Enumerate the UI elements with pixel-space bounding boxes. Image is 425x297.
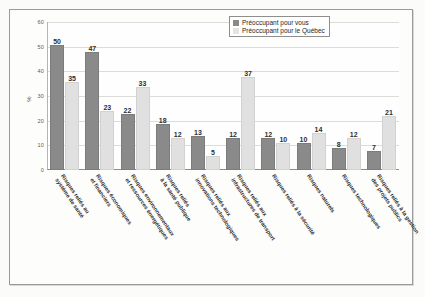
- bar-group: 1812: [153, 22, 188, 170]
- x-category: Risques reliés auxinnovations technologi…: [188, 171, 223, 283]
- bar-group: 2233: [117, 22, 152, 170]
- chart-figure: % 0102030405060 503547232233181213512371…: [0, 0, 425, 297]
- bar-group: 1014: [293, 22, 328, 170]
- bar: 12: [171, 138, 185, 170]
- bar-group: 721: [364, 22, 399, 170]
- bar-value-label: 7: [372, 144, 376, 151]
- legend-item[interactable]: Préoccupant pour vous: [233, 19, 325, 26]
- chart-legend: Préoccupant pour vousPréoccupant pour le…: [229, 16, 330, 37]
- bar: 13: [191, 136, 205, 170]
- bar: 7: [367, 151, 381, 170]
- bar-value-label: 22: [124, 107, 132, 114]
- bar: 23: [100, 111, 114, 170]
- legend-label: Préoccupant pour vous: [242, 19, 309, 26]
- legend-item[interactable]: Préoccupant pour le Québec: [233, 27, 325, 34]
- bar: 35: [65, 82, 79, 170]
- legend-swatch-icon: [233, 20, 239, 26]
- bar-value-label: 12: [350, 131, 358, 138]
- y-tick-label: 0: [41, 167, 44, 173]
- figure-frame: % 0102030405060 503547232233181213512371…: [9, 9, 413, 285]
- bar-value-label: 10: [300, 136, 308, 143]
- plot-wrapper: % 0102030405060 503547232233181213512371…: [10, 10, 414, 286]
- bar: 12: [226, 138, 240, 170]
- x-category: Risques reliésà la santé publique: [153, 171, 188, 283]
- bar-group: 135: [188, 22, 223, 170]
- x-category: Risques naturels: [293, 171, 328, 283]
- y-tick-label: 50: [37, 44, 44, 50]
- bar: 12: [261, 138, 275, 170]
- x-category: Risques reliés à la sécurité: [258, 171, 293, 283]
- bar-value-label: 33: [139, 80, 147, 87]
- bar: 47: [85, 52, 99, 170]
- x-category: Risques technologiques: [329, 171, 364, 283]
- bar-group: 5035: [47, 22, 82, 170]
- bar-groups: 5035472322331812135123712101014812721: [47, 22, 399, 170]
- x-category: Risques économiqueset financiers: [82, 171, 117, 283]
- bar: 22: [121, 114, 135, 170]
- y-tick-label: 30: [37, 93, 44, 99]
- bar-group: 1210: [258, 22, 293, 170]
- bar-value-label: 47: [88, 45, 96, 52]
- y-tick-label: 60: [37, 19, 44, 25]
- bar-group: 1237: [223, 22, 258, 170]
- bar-value-label: 14: [315, 126, 323, 133]
- y-tick-label: 40: [37, 68, 44, 74]
- x-category: Risques environnementauxet ressources én…: [117, 171, 152, 283]
- bar: 50: [50, 45, 64, 170]
- bar-value-label: 23: [103, 104, 111, 111]
- bar-value-label: 8: [337, 141, 341, 148]
- x-category: Risques reliés à la gestiondes projets p…: [364, 171, 399, 283]
- bar: 14: [312, 133, 326, 170]
- bar: 5: [206, 156, 220, 170]
- bar: 21: [382, 116, 396, 170]
- x-category-label: Risques reliés à la gestiondes projets p…: [370, 173, 421, 239]
- bar-value-label: 35: [68, 75, 76, 82]
- x-category: Risques reliés ausystème de santé: [47, 171, 82, 283]
- legend-label: Préoccupant pour le Québec: [242, 27, 325, 34]
- bar-value-label: 12: [264, 131, 272, 138]
- bar-group: 4723: [82, 22, 117, 170]
- x-axis-categories: Risques reliés ausystème de santéRisques…: [47, 171, 399, 283]
- bar-value-label: 12: [174, 131, 182, 138]
- y-tick-label: 10: [37, 142, 44, 148]
- bar-value-label: 37: [244, 70, 252, 77]
- bar-group: 812: [329, 22, 364, 170]
- bar: 10: [297, 143, 311, 170]
- bar-value-label: 50: [53, 38, 61, 45]
- bar: 10: [276, 143, 290, 170]
- bar-value-label: 13: [194, 129, 202, 136]
- bar: 37: [241, 77, 255, 170]
- bar-value-label: 18: [159, 117, 167, 124]
- bar-value-label: 21: [385, 109, 393, 116]
- y-axis-label: %: [26, 96, 32, 101]
- bar: 33: [136, 87, 150, 170]
- bar: 8: [332, 148, 346, 170]
- bar-value-label: 12: [229, 131, 237, 138]
- legend-swatch-icon: [233, 28, 239, 34]
- bar: 12: [347, 138, 361, 170]
- bar-value-label: 10: [279, 136, 287, 143]
- bar-value-label: 5: [211, 149, 215, 156]
- y-tick-label: 20: [37, 118, 44, 124]
- x-category: Risques reliés auxinfrastructures de tra…: [223, 171, 258, 283]
- bar: 18: [156, 124, 170, 170]
